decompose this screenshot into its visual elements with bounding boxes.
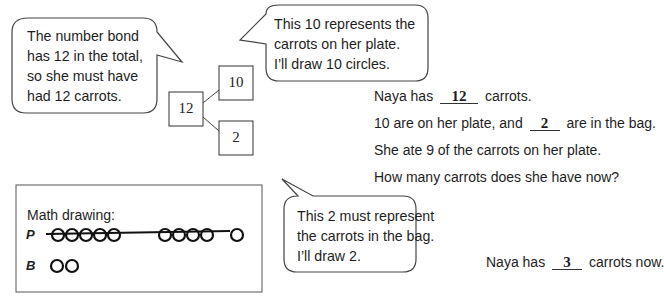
bubble-line: The number bond: [27, 26, 143, 46]
row-label-bag: B: [26, 258, 35, 273]
story-text: carrots now.: [589, 254, 664, 270]
story-text: 10 are on her plate, and: [374, 115, 523, 131]
story-line-1: Naya has 12 carrots.: [374, 88, 532, 104]
final-answer-line: Naya has 3 carrots now.: [486, 254, 664, 270]
bond-whole-value: 12: [169, 100, 203, 117]
bubble-line: I’ll draw 10 circles.: [274, 54, 415, 74]
bubble-line: has 12 in the total,: [27, 46, 143, 66]
story-line-2: 10 are on her plate, and 2 are in the ba…: [374, 115, 656, 131]
bond-part-top-value: 10: [219, 74, 253, 91]
bubble-line: the carrots in the bag.: [297, 226, 434, 246]
answer-blank-bag: 2: [530, 116, 560, 131]
bubble-line: so she must have: [27, 66, 143, 86]
answer-blank-final: 3: [552, 255, 582, 270]
bond-part-bottom-value: 2: [219, 129, 253, 146]
bond-line-bottom: [203, 117, 219, 131]
row-label-plate: P: [26, 227, 35, 242]
bubble-line: This 10 represents the: [274, 14, 415, 34]
cross-out-line: [46, 231, 230, 234]
story-text: Naya has: [374, 88, 433, 104]
story-text: Naya has: [486, 254, 545, 270]
story-text: carrots.: [485, 88, 532, 104]
bubble-line: I’ll draw 2.: [297, 246, 434, 266]
bubble-total-text: The number bond has 12 in the total, so …: [27, 26, 143, 106]
bond-line-top: [203, 90, 219, 103]
bubble-line: had 12 carrots.: [27, 86, 143, 106]
bag-circles: [51, 260, 78, 272]
story-text: are in the bag.: [566, 115, 656, 131]
answer-blank-total: 12: [440, 89, 478, 104]
story-line-3: She ate 9 of the carrots on her plate.: [374, 142, 601, 158]
story-line-4: How many carrots does she have now?: [374, 169, 619, 185]
bubble-two-text: This 2 must represent the carrots in the…: [297, 206, 434, 266]
bubble-line: This 2 must represent: [297, 206, 434, 226]
bubble-line: carrots on her plate.: [274, 34, 415, 54]
math-drawing-frame: [16, 185, 262, 292]
math-drawing-title: Math drawing:: [27, 207, 115, 223]
bubble-ten-text: This 10 represents the carrots on her pl…: [274, 14, 415, 74]
plate-circles: [52, 229, 243, 241]
